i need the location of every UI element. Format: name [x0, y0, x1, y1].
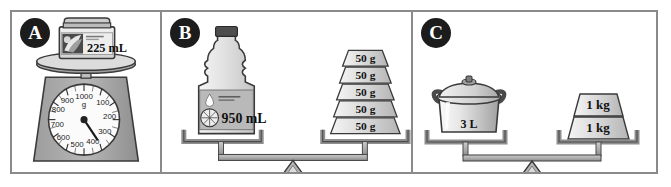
panel-badge-a: A [20, 18, 50, 48]
weight-stack-c: 1 kg 1 kg [568, 94, 629, 139]
jar-volume-label: 225 mL [87, 41, 127, 55]
bottle-graphic: 950 mL [199, 27, 267, 134]
panel-a: A [12, 12, 162, 172]
weight-label-2: 50 g [355, 69, 375, 81]
panel-badge-b: B [170, 18, 200, 48]
dial-tick-300: 300 [98, 127, 112, 136]
weight-label-3: 50 g [355, 86, 375, 98]
panel-b: B [162, 12, 413, 172]
weight-label-5: 50 g [355, 120, 375, 132]
kg-weight-label-1: 1 kg [586, 97, 610, 112]
weight-stack-b: 50 g 50 g 50 g 50 g 50 g [331, 50, 400, 133]
worksheet-frame: A [10, 10, 658, 174]
panel-c: C [413, 12, 656, 172]
dial-tick-500: 500 [71, 140, 85, 149]
bottle-volume-label: 950 mL [222, 111, 267, 126]
dial-unit-label: g [82, 100, 86, 109]
panel-badge-c: C [421, 18, 451, 48]
dial-tick-400: 400 [86, 137, 100, 146]
pot-graphic: 3 L [434, 76, 504, 132]
dial-tick-100: 100 [96, 98, 110, 107]
kg-weight-label-2: 1 kg [586, 120, 610, 135]
dial-tick-600: 600 [57, 133, 71, 142]
weight-label-1: 50 g [355, 52, 375, 64]
dial-tick-700: 700 [51, 120, 65, 129]
balance-apparatus-b [184, 130, 408, 172]
dial-tick-900: 900 [61, 96, 75, 105]
pot-volume-label: 3 L [460, 117, 477, 131]
dial-tick-200: 200 [103, 112, 117, 121]
weight-label-4: 50 g [355, 103, 375, 115]
dial-tick-800: 800 [52, 105, 66, 114]
jar-graphic: 225 mL [59, 18, 127, 58]
